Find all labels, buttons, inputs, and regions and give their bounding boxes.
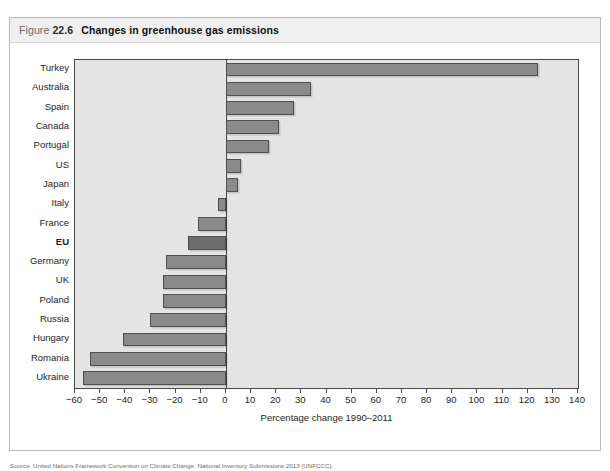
x-tick-label: 140 <box>569 394 585 405</box>
figure-container: Figure 22.6 Changes in greenhouse gas em… <box>9 17 601 451</box>
x-tick <box>149 389 150 393</box>
bar-row <box>75 330 578 349</box>
bar-portugal[interactable] <box>226 140 269 154</box>
x-tick <box>124 389 125 393</box>
bar-russia[interactable] <box>150 313 225 327</box>
x-tick-label: −60 <box>66 394 82 405</box>
x-tick <box>99 389 100 393</box>
x-tick <box>300 389 301 393</box>
y-label-ukraine: Ukraine <box>12 371 74 382</box>
y-label-eu: EU <box>12 236 74 247</box>
bar-spain[interactable] <box>226 101 294 115</box>
x-tick <box>250 389 251 393</box>
x-tick <box>502 389 503 393</box>
x-tick-label: 100 <box>468 394 484 405</box>
x-tick-label: 40 <box>320 394 331 405</box>
y-label-portugal: Portugal <box>12 139 74 150</box>
y-label-us: US <box>12 159 74 170</box>
x-tick-label: 90 <box>446 394 457 405</box>
y-label-italy: Italy <box>12 197 74 208</box>
x-tick-label: 130 <box>544 394 560 405</box>
x-tick-label: 70 <box>396 394 407 405</box>
bar-eu[interactable] <box>188 236 226 250</box>
x-tick-label: 80 <box>421 394 432 405</box>
x-tick <box>401 389 402 393</box>
x-tick <box>326 389 327 393</box>
x-tick-label: 120 <box>519 394 535 405</box>
x-tick-label: −30 <box>141 394 157 405</box>
x-tick <box>577 389 578 393</box>
y-label-canada: Canada <box>12 120 74 131</box>
bar-romania[interactable] <box>90 352 226 366</box>
bar-italy[interactable] <box>218 198 226 212</box>
x-tick <box>376 389 377 393</box>
y-label-uk: UK <box>12 274 74 285</box>
bar-row <box>75 156 578 175</box>
bar-row <box>75 272 578 291</box>
x-tick <box>426 389 427 393</box>
bar-row <box>75 292 578 311</box>
figure-number-prefix: Figure <box>19 24 52 36</box>
y-label-poland: Poland <box>12 294 74 305</box>
x-tick-label: −10 <box>192 394 208 405</box>
bar-japan[interactable] <box>226 178 239 192</box>
x-axis-title: Percentage change 1990–2011 <box>74 412 579 423</box>
bar-row <box>75 195 578 214</box>
y-label-germany: Germany <box>12 255 74 266</box>
x-tick-label: 30 <box>295 394 306 405</box>
y-label-romania: Romania <box>12 352 74 363</box>
bar-row <box>75 99 578 118</box>
bar-row <box>75 214 578 233</box>
x-tick-label: −50 <box>91 394 107 405</box>
x-tick <box>275 389 276 393</box>
x-tick <box>175 389 176 393</box>
x-tick <box>74 389 75 393</box>
bar-row <box>75 369 578 388</box>
y-label-spain: Spain <box>12 101 74 112</box>
x-tick <box>476 389 477 393</box>
x-tick-label: −40 <box>116 394 132 405</box>
y-label-hungary: Hungary <box>12 332 74 343</box>
y-axis-category-labels: TurkeyAustraliaSpainCanadaPortugalUSJapa… <box>10 59 74 389</box>
x-tick-label: 20 <box>270 394 281 405</box>
chart-region: TurkeyAustraliaSpainCanadaPortugalUSJapa… <box>10 43 600 450</box>
bar-row <box>75 60 578 79</box>
bar-row <box>75 253 578 272</box>
bar-germany[interactable] <box>166 255 226 269</box>
y-label-turkey: Turkey <box>12 62 74 73</box>
bar-row <box>75 118 578 137</box>
source-caption: Source: United Nations Framework Convent… <box>10 462 600 470</box>
bar-france[interactable] <box>198 217 226 231</box>
y-label-australia: Australia <box>12 81 74 92</box>
bar-hungary[interactable] <box>123 333 226 347</box>
bar-row <box>75 79 578 98</box>
y-label-russia: Russia <box>12 313 74 324</box>
x-tick-label: 0 <box>222 394 227 405</box>
x-tick <box>451 389 452 393</box>
bar-row <box>75 311 578 330</box>
bar-canada[interactable] <box>226 120 279 134</box>
figure-title-bar: Figure 22.6 Changes in greenhouse gas em… <box>10 18 600 43</box>
bar-turkey[interactable] <box>226 63 538 77</box>
x-tick <box>552 389 553 393</box>
y-label-japan: Japan <box>12 178 74 189</box>
bar-uk[interactable] <box>163 275 226 289</box>
page-title: Changes in greenhouse gas emissions <box>81 24 279 36</box>
bar-ukraine[interactable] <box>83 371 226 385</box>
x-tick <box>200 389 201 393</box>
bar-row <box>75 234 578 253</box>
figure-number: 22.6 <box>52 24 73 36</box>
x-tick-label: 60 <box>371 394 382 405</box>
bar-us[interactable] <box>226 159 241 173</box>
bar-row <box>75 176 578 195</box>
y-label-france: France <box>12 217 74 228</box>
bar-poland[interactable] <box>163 294 226 308</box>
x-tick <box>351 389 352 393</box>
bar-australia[interactable] <box>226 82 312 96</box>
x-tick-label: 10 <box>245 394 256 405</box>
x-tick <box>527 389 528 393</box>
x-tick-label: 110 <box>494 394 509 405</box>
bar-row <box>75 137 578 156</box>
x-tick-label: −20 <box>167 394 183 405</box>
x-tick-label: 50 <box>345 394 356 405</box>
